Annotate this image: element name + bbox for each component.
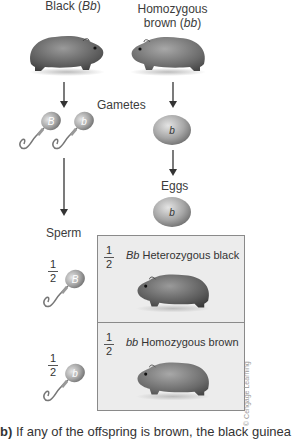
fraction-cell1: 1 2 xyxy=(104,245,114,270)
parent-left-label: Black (Bb) xyxy=(38,0,108,13)
denominator: 2 xyxy=(104,345,114,357)
arrow-down-icon xyxy=(60,82,68,108)
fraction-cell2: 1 2 xyxy=(104,332,114,357)
genotype-text: bb xyxy=(126,336,138,348)
arrow-down-icon xyxy=(169,82,177,108)
allele-b: b xyxy=(169,125,175,136)
egg-cell-top: b xyxy=(152,113,192,147)
guinea-pig-heterozygous-black xyxy=(134,266,214,314)
caption-text: If any of the offspring is brown, the bl… xyxy=(12,424,291,439)
genotype-text: Bb xyxy=(126,249,139,261)
offspring-label-1: Bb Heterozygous black xyxy=(126,249,239,261)
genotype-text: Bb xyxy=(82,0,97,13)
allele-b: b xyxy=(72,368,78,379)
cell-divider xyxy=(98,322,244,323)
sperm-cell-b: b xyxy=(47,110,97,152)
figure-caption: b) If any of the offspring is brown, the… xyxy=(0,424,291,439)
allele-b: b xyxy=(169,207,175,218)
genotype-text: bb xyxy=(184,16,197,30)
label-text: brown ( xyxy=(144,16,184,30)
copyright-credit: © Cengage Learning xyxy=(241,340,255,426)
numerator: 1 xyxy=(104,332,114,345)
label-line2: brown (bb) xyxy=(135,16,210,30)
label-text: ) xyxy=(197,16,201,30)
label-text: Black ( xyxy=(45,0,82,13)
numerator: 1 xyxy=(104,245,114,258)
phenotype-text: Heterozygous black xyxy=(143,249,240,261)
label-text: ) xyxy=(97,0,101,13)
phenotype-text: Homozygous brown xyxy=(141,336,238,348)
guinea-pig-homozygous-brown xyxy=(134,354,214,402)
parent-right-label: Homozygous brown (bb) xyxy=(135,2,210,30)
denominator: 2 xyxy=(104,258,114,270)
allele-b: b xyxy=(81,116,87,127)
sperm-cell-b: b xyxy=(38,362,88,404)
caption-label: b) xyxy=(0,424,12,439)
punnett-square: 1 2 Bb Heterozygous black 1 2 bb Homozyg… xyxy=(97,235,245,411)
allele-B: B xyxy=(72,274,79,285)
egg-cell-bottom: b xyxy=(152,195,192,229)
eggs-label: Eggs xyxy=(161,179,188,193)
guinea-pig-black-parent xyxy=(25,28,107,76)
gametes-label: Gametes xyxy=(97,98,146,112)
sperm-cell-B: B xyxy=(38,268,88,310)
arrow-down-icon xyxy=(169,150,177,176)
offspring-label-2: bb Homozygous brown xyxy=(126,336,239,348)
label-line1: Homozygous xyxy=(135,2,210,16)
credit-text: © Cengage Learning xyxy=(243,361,250,426)
guinea-pig-brown-parent xyxy=(128,30,210,76)
arrow-down-icon xyxy=(60,158,68,216)
sperm-label: Sperm xyxy=(46,226,81,240)
